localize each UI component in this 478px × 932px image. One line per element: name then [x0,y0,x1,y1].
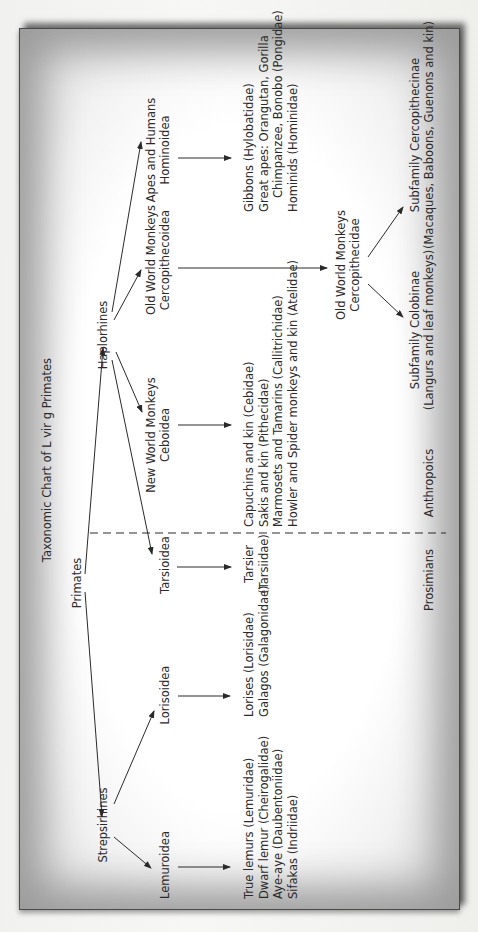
list-item: Hominids (Hominidae) [286,10,301,212]
list-item: Lorises (Lorisidae) [242,585,257,717]
chart-title: Taxonomic Chart of L vir g Primates [40,358,54,562]
list-new-world-monkeys: Capuchins and kin (Cebidae) Sakis and ki… [242,260,300,527]
list-apes: Gibbons (Hylobatidae) Great apes: Orangu… [242,10,300,212]
list-item: Great apes: Orangutan, Gorilla [257,10,272,212]
nwm-taxon: Ceboidea [158,377,172,493]
node-old-world-monkeys-superfamily: Old World Monkeys Cercopithecoidea [144,205,172,315]
list-item: Gibbons (Hylobatidae) [242,10,257,212]
list-item: Aye-aye (Daubentoniidae) [271,736,286,899]
cercopithecinae-members: (Macaques, Baboons, Guenons and kin) [422,21,436,249]
apes-taxon: Hominoidea [158,98,172,203]
colobinae-name: Subfamily Colobinae [408,250,422,411]
apes-common-name: Apes and Humans [144,98,158,203]
list-tarsiers: Tarsier (Tarsiidae) [242,534,271,594]
node-lorisoidea: Lorisoidea [158,666,172,725]
node-primates: Primates [70,558,84,608]
cercopithecinae-name: Subfamily Cercopithecinae [408,21,422,249]
list-item: Dwarf lemur (Cheirogalidae) [257,736,272,899]
list-item: Capuchins and kin (Cebidae) [242,260,257,527]
node-lemuroidea: Lemuroidea [158,831,172,899]
list-item: (Tarsiidae) [257,534,272,594]
colobinae-members: (Langurs and leaf monkeys) [422,250,436,411]
connector-arrows [0,0,478,932]
node-tarsioidea: Tarsioidea [158,536,172,594]
node-old-world-monkeys-family: Old World Monkeys Cercopithecidae [334,210,362,320]
node-strepsirhines: Strepsirhines [96,787,110,862]
node-haplorhines: Haplorhines [96,301,110,370]
node-subfamily-cercopithecinae: Subfamily Cercopithecinae (Macaques, Bab… [408,21,436,249]
list-lemurs: True lemurs (Lemuridae) Dwarf lemur (Che… [242,736,300,899]
owm-family-common-name: Old World Monkeys [334,210,348,320]
nwm-common-name: New World Monkeys [144,377,158,493]
list-item: Sakis and kin (Pithecidae) [257,260,272,527]
list-item: Howler and Spider monkeys and kin (Ateli… [286,260,301,527]
node-new-world-monkeys: New World Monkeys Ceboidea [144,377,172,493]
group-label-prosimians: Prosimians [422,549,436,611]
list-item: Sifakas (Indriidae) [286,736,301,899]
list-lorises: Lorises (Lorisidae) Galagos (Galagonidae… [242,585,271,717]
group-label-anthropoics: Anthropoics [422,449,436,517]
list-item: Chimpanzee, Bonobo (Pongidae) [271,10,286,212]
node-subfamily-colobinae: Subfamily Colobinae (Langurs and leaf mo… [408,250,436,411]
list-item: Marmosets and Tamarins (Callitrichidae) [271,260,286,527]
owm-super-common-name: Old World Monkeys [144,205,158,315]
list-item: Galagos (Galagonidae) [257,585,272,717]
list-item: Tarsier [242,534,257,594]
list-item: True lemurs (Lemuridae) [242,736,257,899]
node-apes-and-humans: Apes and Humans Hominoidea [144,98,172,203]
owm-family-taxon: Cercopithecidae [348,210,362,320]
rotated-chart-canvas: Taxonomic Chart of L vir g Primates Prim… [0,0,478,932]
owm-super-taxon: Cercopithecoidea [158,205,172,315]
